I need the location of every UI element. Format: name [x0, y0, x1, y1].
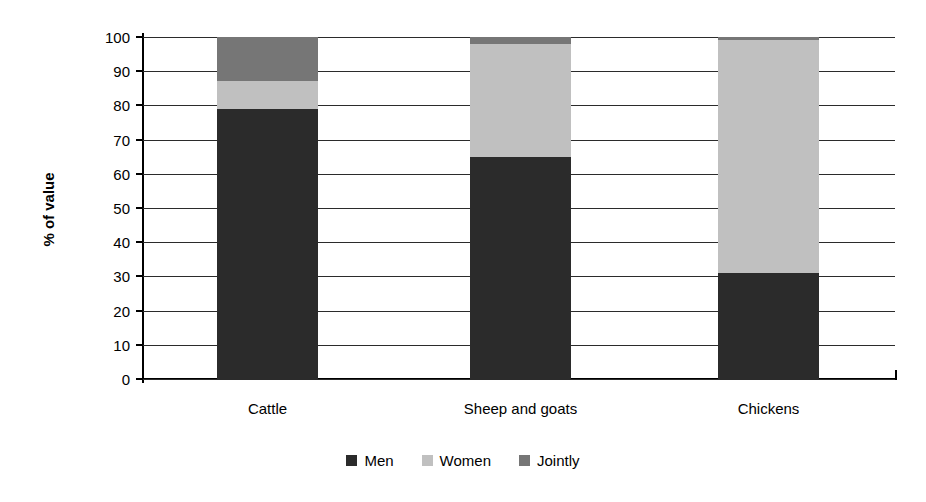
legend-label: Jointly	[537, 452, 580, 469]
bar-segment-jointly[interactable]	[217, 37, 318, 81]
bar-segment-women[interactable]	[217, 81, 318, 108]
y-axis-tick	[136, 104, 143, 106]
y-axis-tick	[136, 173, 143, 175]
category-label: Chickens	[639, 400, 899, 417]
bar-sheep-and-goats[interactable]	[470, 37, 571, 379]
bar-chickens[interactable]	[718, 37, 819, 379]
y-axis-tick	[136, 378, 143, 380]
y-axis-tick-label: 20	[90, 302, 130, 319]
legend-swatch-icon	[519, 455, 530, 466]
y-axis-tick	[136, 275, 143, 277]
x-axis-right-cap	[895, 370, 897, 380]
y-axis-tick-label: 0	[90, 371, 130, 388]
y-axis-tick-label: 90	[90, 63, 130, 80]
bar-segment-jointly[interactable]	[718, 37, 819, 40]
y-axis-tick	[136, 139, 143, 141]
bar-cattle[interactable]	[217, 37, 318, 379]
category-label: Sheep and goats	[391, 400, 651, 417]
chart-legend: MenWomenJointly	[0, 452, 926, 469]
bar-segment-women[interactable]	[470, 44, 571, 157]
y-axis-tick-label: 40	[90, 234, 130, 251]
y-axis-tick-label: 50	[90, 200, 130, 217]
y-axis-tick-label: 30	[90, 268, 130, 285]
y-axis-tick	[136, 344, 143, 346]
y-axis-tick-label: 100	[90, 29, 130, 46]
stacked-bar-chart: % of value 1009080706050403020100 Cattle…	[0, 0, 926, 502]
legend-swatch-icon	[346, 455, 357, 466]
y-axis-tick-label: 80	[90, 97, 130, 114]
y-axis-tick	[136, 36, 143, 38]
y-axis-tick	[136, 241, 143, 243]
legend-item-men[interactable]: Men	[346, 452, 393, 469]
y-axis-tick-label: 10	[90, 336, 130, 353]
y-axis-tick	[136, 310, 143, 312]
legend-item-women[interactable]: Women	[422, 452, 491, 469]
category-label: Cattle	[138, 400, 398, 417]
bar-segment-men[interactable]	[217, 109, 318, 379]
bar-segment-women[interactable]	[718, 40, 819, 273]
y-axis-tick-label: 60	[90, 165, 130, 182]
legend-swatch-icon	[422, 455, 433, 466]
plot-area: 1009080706050403020100	[142, 37, 895, 379]
gridline	[142, 379, 895, 380]
legend-label: Women	[440, 452, 491, 469]
y-axis-tick-label: 70	[90, 131, 130, 148]
y-axis-tick	[136, 70, 143, 72]
y-axis-title: % of value	[38, 37, 60, 382]
bar-segment-men[interactable]	[718, 273, 819, 379]
legend-label: Men	[364, 452, 393, 469]
y-axis-tick	[136, 207, 143, 209]
bar-segment-jointly[interactable]	[470, 37, 571, 44]
legend-item-jointly[interactable]: Jointly	[519, 452, 580, 469]
bar-segment-men[interactable]	[470, 157, 571, 379]
